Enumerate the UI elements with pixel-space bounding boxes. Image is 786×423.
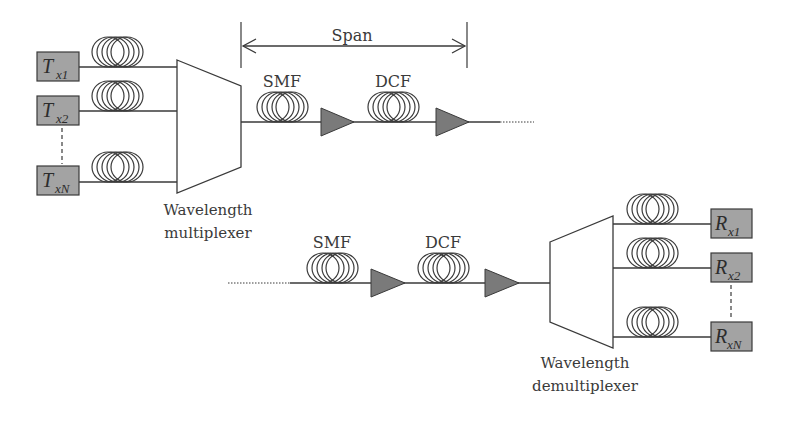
- smf-label: SMF: [313, 233, 351, 252]
- dcf-coil-icon: [418, 253, 469, 283]
- smf-label: SMF: [263, 72, 301, 91]
- receiver-box-n: R xN: [711, 322, 752, 352]
- demultiplexer-trapezoid-icon: [550, 216, 613, 348]
- fiber-coil-icon: [627, 238, 678, 268]
- dcf-label: DCF: [375, 72, 411, 91]
- amplifier-triangle-icon: [485, 269, 519, 297]
- transmitter-box-2: T x2: [37, 96, 79, 126]
- span-label: Span: [331, 26, 372, 45]
- span-marker: Span: [241, 22, 467, 68]
- receiver-box-1: R x1: [711, 209, 752, 239]
- wavelength-demultiplexer: Wavelength demultiplexer: [532, 216, 639, 395]
- amplifier-triangle-icon: [321, 108, 354, 136]
- receiver-box-2: R x2: [711, 253, 752, 283]
- multiplexer-label-line2: multiplexer: [164, 224, 252, 242]
- transmitter-label: T: [42, 99, 55, 121]
- receiver-label: R: [714, 212, 727, 234]
- dcf-coil-icon: [368, 92, 419, 122]
- wavelength-multiplexer: Wavelength multiplexer: [163, 60, 252, 242]
- fiber-coil-icon: [92, 37, 143, 67]
- dcf-label: DCF: [425, 233, 461, 252]
- multiplexer-trapezoid-icon: [177, 60, 241, 193]
- transmitter-box-1: T x1: [37, 52, 79, 82]
- transmitter-label: T: [42, 55, 55, 77]
- receiver-subscript: xN: [726, 337, 743, 352]
- multiplexer-label-line1: Wavelength: [163, 201, 252, 219]
- fiber-coil-icon: [92, 81, 143, 111]
- amplifier-triangle-icon: [371, 269, 405, 297]
- bottom-fiber-link: SMF DCF: [228, 233, 550, 297]
- transmitter-subscript: x2: [55, 111, 69, 126]
- transmitter-group: T x1 T x2 T xN: [37, 37, 177, 196]
- fiber-coil-icon: [92, 152, 143, 182]
- smf-coil-icon: [257, 92, 308, 122]
- fiber-coil-icon: [627, 194, 678, 224]
- receiver-subscript: x1: [727, 224, 740, 239]
- receiver-label: R: [714, 256, 727, 278]
- receiver-group: R x1 R x2 R xN: [613, 194, 752, 352]
- demultiplexer-label-line2: demultiplexer: [532, 377, 639, 395]
- smf-coil-icon: [307, 253, 358, 283]
- wdm-link-diagram: T x1 T x2 T xN Wavelength multiplexer: [0, 0, 786, 423]
- transmitter-subscript: xN: [54, 181, 71, 196]
- demultiplexer-label-line1: Wavelength: [540, 354, 629, 372]
- top-fiber-link: SMF DCF: [241, 72, 534, 136]
- transmitter-subscript: x1: [55, 67, 68, 82]
- transmitter-label: T: [42, 169, 55, 191]
- fiber-coil-icon: [627, 307, 678, 337]
- receiver-label: R: [714, 325, 727, 347]
- receiver-subscript: x2: [727, 268, 741, 283]
- amplifier-triangle-icon: [436, 108, 469, 136]
- transmitter-box-n: T xN: [37, 166, 79, 196]
